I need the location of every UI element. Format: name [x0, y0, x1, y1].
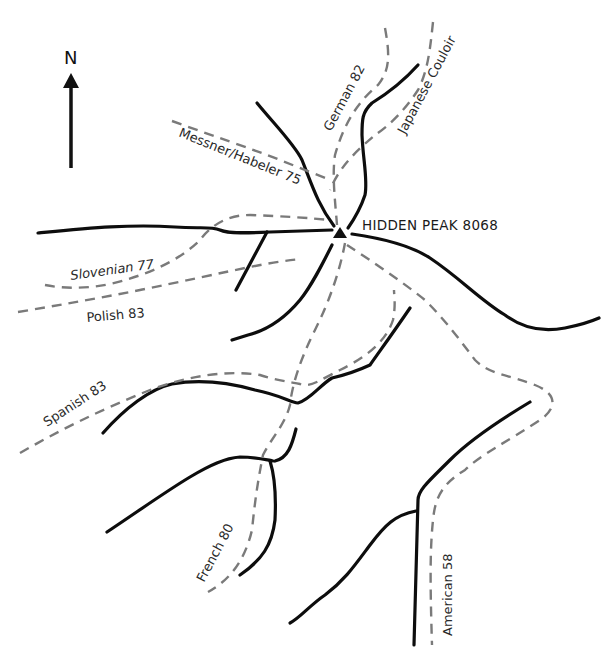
ridge-west [38, 226, 332, 233]
north-arrow-head-icon [63, 73, 79, 88]
label-american: American 58 [440, 553, 455, 636]
triangle-summit-icon [333, 227, 347, 238]
ridge-east [352, 234, 599, 330]
ridge-north [348, 65, 418, 228]
route-spanish [20, 290, 395, 453]
label-french: French 80 [193, 521, 236, 584]
peak-label: HIDDEN PEAK 8068 [362, 217, 498, 233]
ridge-south-spanish [103, 308, 410, 433]
route-map: N HIDDEN PEAK 8068 Messner/Habeler 75 [0, 0, 605, 652]
north-label: N [64, 47, 77, 68]
label-japanese-couloir: Japanese Couloir [394, 33, 459, 138]
label-spanish: Spanish 83 [40, 378, 109, 430]
ridges [38, 65, 599, 645]
routes [18, 22, 553, 645]
ridge-french-spur [275, 429, 296, 461]
ridge-french-upper [107, 457, 273, 532]
label-polish: Polish 83 [86, 305, 145, 325]
route-polish [18, 259, 302, 312]
ridge-american-branch [290, 511, 416, 623]
ridge-french-lower [240, 461, 275, 575]
label-slovenian: Slovenian 77 [69, 256, 155, 283]
north-arrow: N [63, 47, 79, 168]
ridge-west-spur [236, 232, 267, 290]
label-german: German 82 [320, 62, 367, 133]
